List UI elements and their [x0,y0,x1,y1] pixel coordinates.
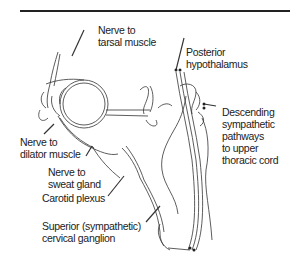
label-carotid-plexus: Carotid plexus [42,192,105,204]
label-superior-ganglion: Superior (sympathetic) cervical ganglion [42,220,141,244]
label-descending-pathways: Descending sympathetic pathways to upper… [222,106,278,166]
label-nerve-dilator: Nerve to dilator muscle [20,136,81,160]
label-posterior-hypothalamus: Posterior hypothalamus [186,46,248,70]
label-nerve-sweat: Nerve to sweat gland [48,166,101,190]
label-nerve-tarsal: Nerve to tarsal muscle [98,24,156,48]
